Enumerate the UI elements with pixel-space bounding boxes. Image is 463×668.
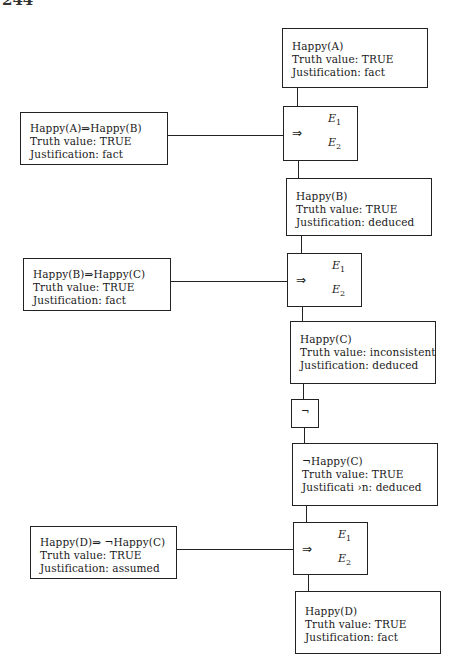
node-formula: Happy(C) — [300, 333, 435, 346]
operand-e1: E1 — [338, 528, 351, 543]
node-formula: Happy(B) — [296, 190, 431, 203]
implies-symbol: ⇒ — [302, 542, 312, 556]
connector-op3-d — [308, 574, 309, 592]
connector-op2-c — [302, 306, 303, 322]
connector-impl-bc-op2 — [171, 281, 287, 282]
implies-symbol: ⇒ — [296, 273, 306, 287]
node-formula: ¬Happy(C) — [302, 455, 437, 468]
connector-notc-op3 — [306, 505, 307, 523]
node-impl-d-not-c: Happy(D)⇒ ¬Happy(C) Truth value: TRUE Ju… — [30, 526, 177, 579]
node-justification: Justification: assumed — [40, 562, 176, 575]
node-truth-value: Truth value: TRUE — [296, 203, 431, 216]
connector-neg-notc — [304, 427, 305, 444]
node-formula: Happy(A)⇒Happy(B) — [30, 122, 167, 135]
node-justification: Justification: deduced — [300, 359, 435, 372]
node-truth-value: Truth value: inconsistent — [300, 346, 435, 359]
implies-operator-3: ⇒ E1 E2 — [293, 522, 368, 575]
operand-e2: E2 — [338, 552, 351, 567]
operand-e2: E2 — [332, 283, 345, 298]
node-not-happy-c: ¬Happy(C) Truth value: TRUE Justificati … — [292, 443, 438, 506]
implies-symbol: ⇒ — [292, 126, 302, 140]
implies-operator-2: ⇒ E1 E2 — [287, 253, 362, 307]
node-justification: Justification: fact — [305, 631, 440, 644]
node-formula: Happy(D) — [305, 605, 440, 618]
node-truth-value: Truth value: TRUE — [33, 281, 170, 294]
node-formula: Happy(D)⇒ ¬Happy(C) — [40, 536, 176, 549]
negation-symbol: ¬ — [301, 406, 309, 417]
node-justification: Justification: deduced — [296, 216, 431, 229]
node-formula: Happy(A) — [292, 40, 427, 53]
connector-c-neg — [303, 383, 304, 400]
node-impl-a-b: Happy(A)⇒Happy(B) Truth value: TRUE Just… — [20, 112, 168, 165]
node-truth-value: Truth value: TRUE — [302, 468, 437, 481]
node-impl-b-c: Happy(B)⇒Happy(C) Truth value: TRUE Just… — [23, 258, 171, 311]
node-justification: Justification: fact — [30, 148, 167, 161]
node-justification: Justificati ›n: deduced — [302, 481, 437, 494]
connector-a-op1 — [297, 88, 298, 107]
node-truth-value: Truth value: TRUE — [40, 549, 176, 562]
node-justification: Justification: fact — [33, 294, 170, 307]
implies-operator-1: ⇒ E1 E2 — [283, 106, 358, 161]
node-truth-value: Truth value: TRUE — [305, 618, 440, 631]
node-happy-b: Happy(B) Truth value: TRUE Justification… — [286, 178, 432, 236]
connector-impl-ab-op1 — [167, 135, 283, 136]
node-happy-a: Happy(A) Truth value: TRUE Justification… — [282, 28, 428, 88]
operand-e1: E1 — [332, 259, 345, 274]
operand-e2: E2 — [328, 136, 341, 151]
node-happy-c: Happy(C) Truth value: inconsistent Justi… — [290, 321, 436, 384]
operand-e1: E1 — [328, 112, 341, 127]
node-truth-value: Truth value: TRUE — [292, 53, 427, 66]
connector-b-op2 — [301, 235, 302, 254]
node-truth-value: Truth value: TRUE — [30, 135, 167, 148]
node-justification: Justification: fact — [292, 66, 427, 79]
connector-impl-dnc-op3 — [176, 549, 293, 550]
page-number: 244 — [2, 0, 33, 9]
negation-operator: ¬ — [291, 399, 319, 428]
node-happy-d: Happy(D) Truth value: TRUE Justification… — [295, 591, 441, 654]
connector-op1-b — [298, 160, 299, 179]
node-formula: Happy(B)⇒Happy(C) — [33, 268, 170, 281]
